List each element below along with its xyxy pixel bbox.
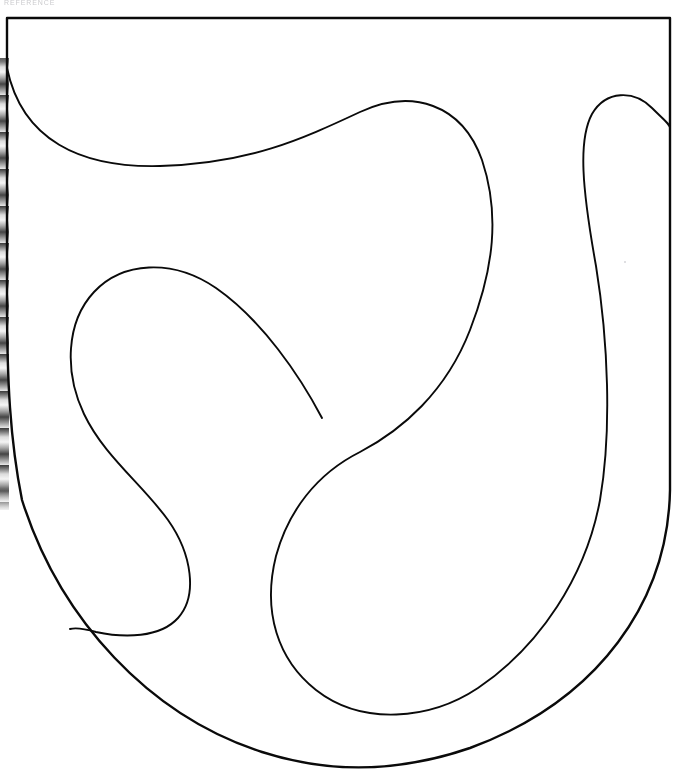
scanned-page: REFERENCE (0, 0, 681, 782)
shield-line-drawing (0, 0, 681, 782)
partition-curve-teardrop-loop (70, 267, 322, 635)
scanner-dust-speck (624, 261, 626, 263)
shield-outline-path (7, 18, 670, 767)
partition-curve-upper-sweep (7, 68, 670, 715)
